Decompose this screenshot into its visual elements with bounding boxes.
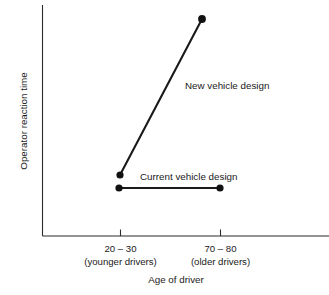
x-axis-ticks: [121, 230, 221, 237]
annotation-current-vehicle-design: Current vehicle design: [140, 171, 237, 182]
x-tick-label-2: 70 – 80: [204, 243, 236, 254]
chart-axes: [43, 5, 329, 236]
annotation-new-vehicle-design: New vehicle design: [185, 80, 269, 91]
chart-figure: New vehicle design Current vehicle desig…: [0, 0, 329, 295]
x-tick-sublabel-1: (younger drivers): [84, 256, 157, 267]
series-new-line: [120, 19, 202, 175]
series-new-vehicle-design: [116, 15, 206, 178]
series-current-vehicle-design: [115, 184, 223, 191]
series-new-point-younger: [116, 171, 123, 178]
x-axis-title: Age of driver: [148, 274, 204, 285]
series-current-point-younger: [115, 184, 122, 191]
x-tick-sublabel-2: (older drivers): [191, 256, 250, 267]
series-current-point-older: [216, 184, 223, 191]
y-axis-title: Operator reaction time: [18, 72, 29, 170]
series-new-point-older: [198, 15, 206, 23]
line-chart: New vehicle design Current vehicle desig…: [0, 0, 329, 295]
x-tick-label-1: 20 – 30: [104, 243, 136, 254]
